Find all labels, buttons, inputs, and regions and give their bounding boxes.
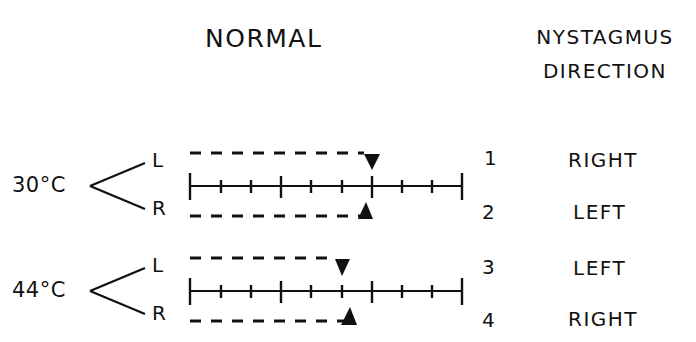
down-triangle-marker-3 — [335, 259, 350, 276]
branch-icon-44c — [90, 268, 145, 314]
caloric-test-diagram — [0, 0, 696, 342]
branch-icon-30c — [90, 163, 145, 209]
up-triangle-marker-4 — [341, 307, 357, 325]
scale-axis-30c — [190, 173, 462, 200]
down-triangle-marker-1 — [364, 154, 380, 170]
scale-axis-44c — [190, 278, 462, 305]
up-triangle-marker-2 — [358, 202, 373, 219]
